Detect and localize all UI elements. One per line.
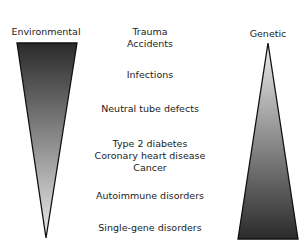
genetic-title: Genetic: [238, 28, 298, 40]
item-infections: Infections: [100, 69, 200, 81]
item-trauma-accidents: Trauma Accidents: [100, 26, 200, 50]
environmental-triangle: [17, 43, 77, 238]
item-single-gene: Single-gene disorders: [95, 222, 205, 234]
genetic-triangle: [238, 43, 298, 239]
item-neural-tube-defects: Neutral tube defects: [95, 103, 205, 115]
item-autoimmune: Autoimmune disorders: [95, 190, 205, 202]
environmental-title: Environmental: [6, 26, 86, 38]
item-chronic-diseases: Type 2 diabetes Coronary heart disease C…: [90, 138, 210, 174]
